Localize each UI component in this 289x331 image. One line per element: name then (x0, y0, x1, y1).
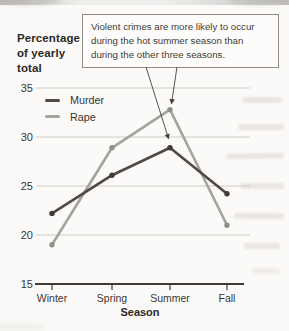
crime-seasons-line-chart (0, 0, 289, 331)
rape-line (52, 110, 227, 245)
murder-point-winter (49, 211, 54, 216)
rape-point-spring (109, 145, 114, 150)
legend-label-murder: Murder (70, 94, 104, 106)
rape-line-swatch (45, 115, 60, 118)
x-axis-title: Season (108, 306, 172, 318)
legend-label-rape: Rape (70, 111, 96, 123)
legend-item-murder: Murder (45, 92, 104, 109)
scanned-textbook-figure: Percentage of yearly total Violent crime… (0, 0, 289, 331)
x-tick-label-winter: Winter (24, 292, 80, 304)
callout-arrow-rape-peak (172, 67, 178, 104)
murder-point-summer (167, 145, 172, 150)
rape-point-fall (224, 223, 229, 228)
rape-point-summer (167, 107, 172, 112)
rape-point-winter (49, 242, 54, 247)
murder-point-fall (224, 191, 229, 196)
y-tick-label-25: 25 (0, 180, 33, 192)
murder-point-spring (109, 173, 114, 178)
legend-item-rape: Rape (45, 109, 104, 126)
legend: Murder Rape (45, 92, 104, 125)
y-tick-label-15: 15 (0, 278, 33, 290)
y-tick-label-35: 35 (0, 82, 33, 94)
x-tick-label-summer: Summer (142, 292, 198, 304)
x-tick-label-spring: Spring (84, 292, 140, 304)
y-tick-label-30: 30 (0, 131, 33, 143)
callout-arrow-murder-peak (146, 67, 169, 139)
murder-line-swatch (45, 99, 60, 102)
y-tick-label-20: 20 (0, 229, 33, 241)
x-tick-label-fall: Fall (199, 292, 255, 304)
